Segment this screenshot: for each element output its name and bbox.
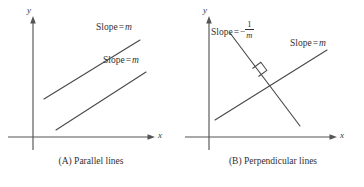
right-angle-marker-icon: [253, 62, 267, 76]
parallel-line-upper: [44, 40, 140, 99]
x-axis-arrowhead: [330, 134, 338, 140]
parallel-line-lower: [56, 72, 146, 130]
slope-label-upper: Slope=m: [96, 23, 132, 33]
slope-label-upper-prefix: Slope: [96, 22, 118, 32]
slope-label-neg-equals: =: [233, 27, 240, 37]
slope-label-negative-reciprocal: Slope=− 1 m: [211, 21, 254, 41]
panel-a-graph: [0, 0, 182, 152]
slope-label-neg-prefix: Slope: [211, 27, 233, 37]
slope-label-m-equals: =: [312, 38, 319, 48]
perpendicular-line-rising: [215, 50, 327, 120]
panel-b-caption: (B) Perpendicular lines: [182, 156, 364, 167]
x-axis-label: x: [158, 131, 162, 140]
y-axis-label: y: [27, 6, 31, 15]
slope-label-lower-value: m: [132, 55, 139, 65]
x-axis-label: x: [340, 131, 344, 140]
figure-parallel-perpendicular-lines: y x Slope=m Slope=m (A) Parallel lines y: [0, 0, 364, 187]
slope-label-upper-equals: =: [118, 22, 125, 32]
fraction-denominator: m: [245, 31, 253, 40]
y-axis-label: y: [203, 6, 207, 15]
slope-label-m-value: m: [319, 38, 326, 48]
slope-label-m: Slope=m: [290, 39, 326, 49]
slope-label-lower-equals: =: [125, 55, 132, 65]
slope-label-lower-prefix: Slope: [103, 55, 125, 65]
slope-label-m-prefix: Slope: [290, 38, 312, 48]
panel-b-graph: [182, 0, 364, 152]
slope-label-lower: Slope=m: [103, 56, 139, 66]
panel-perpendicular-lines: y x Slope=− 1 m Slope=m (B) Perpendicula…: [182, 0, 364, 187]
y-axis-arrowhead: [30, 16, 36, 24]
slope-label-neg-fraction: 1 m: [245, 20, 253, 40]
fraction-numerator: 1: [245, 20, 253, 29]
slope-label-upper-value: m: [125, 22, 132, 32]
x-axis-arrowhead: [148, 134, 156, 140]
panel-a-caption: (A) Parallel lines: [0, 156, 182, 167]
panel-parallel-lines: y x Slope=m Slope=m (A) Parallel lines: [0, 0, 182, 187]
